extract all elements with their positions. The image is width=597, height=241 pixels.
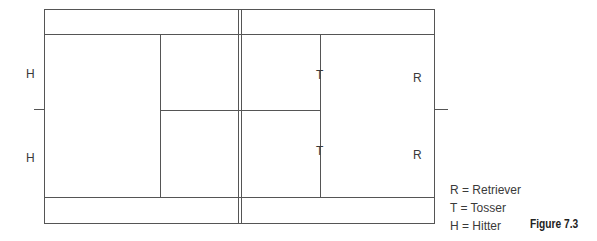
legend-hitter: H = Hitter: [450, 217, 521, 235]
player-tosser-1: T: [316, 69, 323, 81]
player-hitter-1: H: [26, 68, 35, 80]
court-outline: [45, 10, 435, 224]
legend-tosser: T = Tosser: [450, 199, 521, 217]
figure-caption: Figure 7.3: [530, 217, 578, 231]
player-hitter-2: H: [26, 152, 35, 164]
player-tosser-2: T: [316, 145, 323, 157]
player-retriever-2: R: [413, 149, 422, 161]
player-retriever-1: R: [413, 72, 422, 84]
legend-retriever: R = Retriever: [450, 181, 521, 199]
legend: R = Retriever T = Tosser H = Hitter: [450, 181, 521, 235]
